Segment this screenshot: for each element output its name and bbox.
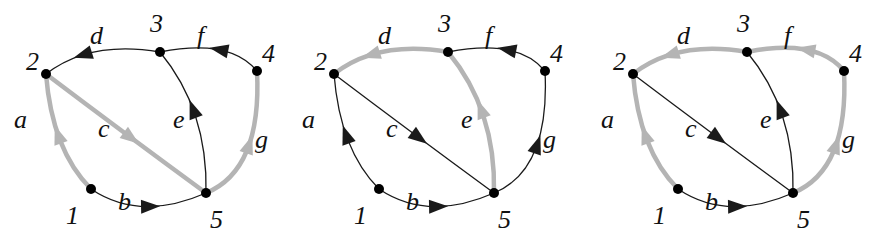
edge-label-f: f xyxy=(197,21,208,50)
node-label-5: 5 xyxy=(210,205,223,234)
node-1 xyxy=(673,184,683,194)
edge-d xyxy=(633,49,747,74)
arrow-icon xyxy=(770,97,790,120)
node-label-1: 1 xyxy=(653,201,666,230)
edge-f xyxy=(448,48,545,71)
node-4 xyxy=(252,66,262,76)
arrow-icon xyxy=(183,97,203,120)
node-4 xyxy=(540,66,550,76)
edge-label-e: e xyxy=(173,105,185,134)
edge-label-f: f xyxy=(784,21,795,50)
edge-label-a: a xyxy=(302,105,315,134)
node-label-2: 2 xyxy=(613,47,626,76)
edge-label-d: d xyxy=(677,21,691,50)
edge-label-g: g xyxy=(543,125,556,154)
edge-label-g: g xyxy=(842,125,855,154)
edge-d xyxy=(334,49,448,74)
edge-f xyxy=(747,48,844,71)
node-2 xyxy=(329,69,339,79)
graph-2: abcdefg12345 xyxy=(302,9,563,234)
node-label-3: 3 xyxy=(736,9,750,38)
edge-label-c: c xyxy=(685,114,697,143)
graph-3: abcdefg12345 xyxy=(601,9,862,234)
arrow-icon xyxy=(429,199,448,213)
node-5 xyxy=(489,188,499,198)
edge-label-a: a xyxy=(601,105,614,134)
graph-figure: abcdefg12345 abcdefg12345 abcdefg12345 xyxy=(0,0,889,239)
node-1 xyxy=(86,184,96,194)
edge-label-e: e xyxy=(461,105,473,134)
edge-g xyxy=(793,71,844,193)
edge-label-g: g xyxy=(255,125,268,154)
edge-label-c: c xyxy=(98,114,110,143)
edge-label-c: c xyxy=(386,114,398,143)
edge-label-b: b xyxy=(406,187,419,216)
node-3 xyxy=(443,47,453,57)
node-2 xyxy=(41,69,51,79)
edge-label-b: b xyxy=(705,187,718,216)
node-label-4: 4 xyxy=(849,39,862,68)
node-label-2: 2 xyxy=(314,47,327,76)
arrow-icon xyxy=(48,123,68,146)
edge-label-d: d xyxy=(90,21,104,50)
node-5 xyxy=(201,188,211,198)
graph-1: abcdefg12345 xyxy=(14,9,275,234)
node-label-4: 4 xyxy=(550,39,563,68)
node-3 xyxy=(155,47,165,57)
edge-label-a: a xyxy=(14,105,27,134)
edge-label-e: e xyxy=(760,105,772,134)
node-label-3: 3 xyxy=(149,9,163,38)
edge-g xyxy=(206,71,257,193)
edge-g xyxy=(494,71,545,193)
node-5 xyxy=(788,188,798,198)
arrow-icon xyxy=(496,41,517,58)
arrow-icon xyxy=(408,127,432,150)
node-label-5: 5 xyxy=(498,205,511,234)
node-4 xyxy=(839,66,849,76)
arrow-icon xyxy=(336,123,356,146)
edge-label-d: d xyxy=(378,21,392,50)
node-1 xyxy=(374,184,384,194)
arrow-icon xyxy=(471,97,491,120)
arrow-icon xyxy=(728,199,747,213)
arrow-icon xyxy=(635,123,655,146)
node-label-3: 3 xyxy=(437,9,451,38)
edge-f xyxy=(160,48,257,71)
node-label-5: 5 xyxy=(797,205,810,234)
node-label-4: 4 xyxy=(262,39,275,68)
node-3 xyxy=(742,47,752,57)
node-2 xyxy=(628,69,638,79)
node-label-1: 1 xyxy=(66,201,79,230)
arrow-icon xyxy=(141,199,160,213)
node-label-1: 1 xyxy=(354,201,367,230)
arrow-icon xyxy=(707,127,731,150)
node-label-2: 2 xyxy=(26,47,39,76)
edge-label-b: b xyxy=(118,187,131,216)
edge-label-f: f xyxy=(485,21,496,50)
arrow-icon xyxy=(208,41,229,58)
edge-d xyxy=(46,49,160,74)
